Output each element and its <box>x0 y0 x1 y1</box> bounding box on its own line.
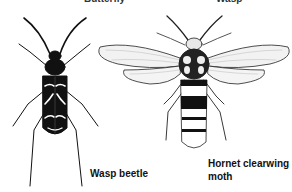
hornet-clearwing-moth-label-line2: moth <box>208 170 232 183</box>
wasp-beetle-label: Wasp beetle <box>90 167 148 180</box>
hornet-clearwing-moth-drawing <box>99 16 289 148</box>
hornet-clearwing-moth-label-line1: Hornet clearwing <box>208 157 289 170</box>
wasp-beetle-drawing <box>13 18 98 186</box>
illustration-canvas: Butterfly Wasp <box>0 0 292 192</box>
